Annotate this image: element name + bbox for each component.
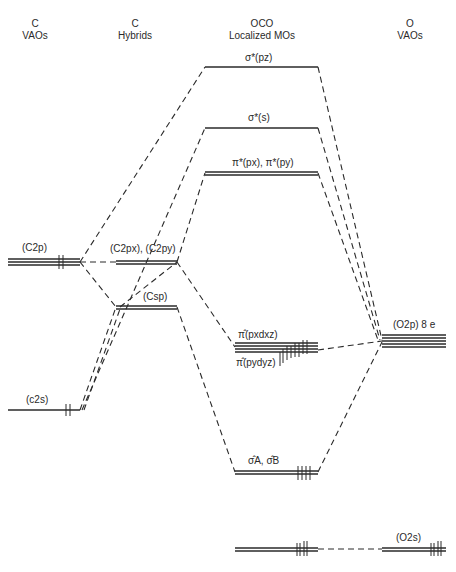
- correlation-lines: [80, 67, 382, 549]
- label-pi-hat-pydyz: π̂(pydyz): [236, 357, 276, 369]
- electron-arrows: [59, 255, 441, 556]
- label-pi-hat-pxdxz: π̂(pxdxz): [238, 329, 278, 341]
- label-o2p: (O2p) 8 e: [393, 319, 435, 331]
- header-c-hybrids: C Hybrids: [80, 18, 190, 42]
- header-c-vaos: C VAOs: [0, 18, 90, 42]
- label-c2px-c2py: (C2px), (C2py): [110, 243, 176, 255]
- level-o2s: [382, 548, 446, 551]
- label-o2s: (O2s): [396, 532, 421, 544]
- level-pi-hat: [235, 343, 318, 352]
- header-o-vaos: O VAOs: [355, 18, 456, 42]
- label-c2s: (c2s): [26, 394, 48, 406]
- label-sigma-star-s: σ*(s): [248, 112, 270, 124]
- level-bottom-mo: [235, 548, 318, 551]
- mo-diagram: [0, 0, 456, 572]
- label-csp: (Csp): [143, 291, 167, 303]
- label-c2p: (C2p): [22, 242, 47, 254]
- label-sigma-hat-ab: σ̂A, σ̂B: [248, 455, 279, 467]
- level-pi-star: [205, 172, 318, 175]
- label-pi-star: π*(px), π*(py): [232, 157, 294, 169]
- label-sigma-star-pz: σ*(pz): [245, 52, 272, 64]
- level-csp: [116, 306, 177, 309]
- level-o2p: [382, 335, 446, 347]
- header-oco-localized-mos: OCO Localized MOs: [207, 18, 317, 42]
- level-c2p: [8, 259, 80, 265]
